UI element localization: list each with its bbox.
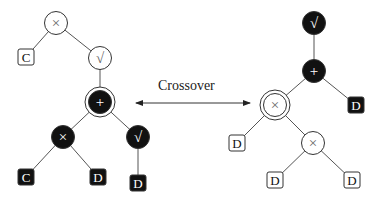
left-tree-node-l9: D xyxy=(130,175,146,191)
node-glyph: × xyxy=(309,135,317,151)
node-glyph: + xyxy=(310,63,318,79)
crossover-diagram: ×C√+×√CDD√+×DD×DD xyxy=(0,0,376,202)
node-glyph: √ xyxy=(96,50,105,66)
node-glyph: D xyxy=(133,176,142,191)
node-glyph: + xyxy=(96,94,104,110)
left-tree-node-l2: C xyxy=(18,49,34,65)
right-tree-node-r1: √ xyxy=(303,12,326,35)
node-glyph: C xyxy=(22,50,31,65)
node-glyph: D xyxy=(270,173,279,188)
left-tree-node-l6: √ xyxy=(127,126,150,149)
left-tree-node-l8: D xyxy=(90,169,106,185)
left-tree-node-l7: C xyxy=(18,169,34,185)
left-tree-node-l5: × xyxy=(52,126,75,149)
node-glyph: C xyxy=(22,170,31,185)
right-tree-node-r2: + xyxy=(303,60,326,83)
right-tree-node-r3: × xyxy=(260,90,290,120)
tree-nodes: ×C√+×√CDD√+×DD×DD xyxy=(18,12,364,192)
node-glyph: × xyxy=(271,97,279,113)
right-tree-node-r6: × xyxy=(302,132,325,155)
node-glyph: D xyxy=(232,136,241,151)
node-glyph: × xyxy=(59,129,67,145)
node-glyph: D xyxy=(347,173,356,188)
node-glyph: √ xyxy=(134,129,143,145)
crossover-label: Crossover xyxy=(158,78,215,94)
node-glyph: D xyxy=(351,98,360,113)
left-tree-node-l3: √ xyxy=(89,47,112,70)
right-tree-node-r7: D xyxy=(267,172,283,188)
node-glyph: × xyxy=(52,15,60,31)
right-tree-node-r5: D xyxy=(229,135,245,151)
left-tree-node-l4: + xyxy=(85,87,115,117)
right-tree-node-r4: D xyxy=(348,97,364,113)
node-glyph: D xyxy=(93,170,102,185)
left-tree-node-l1: × xyxy=(45,12,68,35)
node-glyph: √ xyxy=(310,15,319,31)
right-tree-node-r8: D xyxy=(344,172,360,188)
